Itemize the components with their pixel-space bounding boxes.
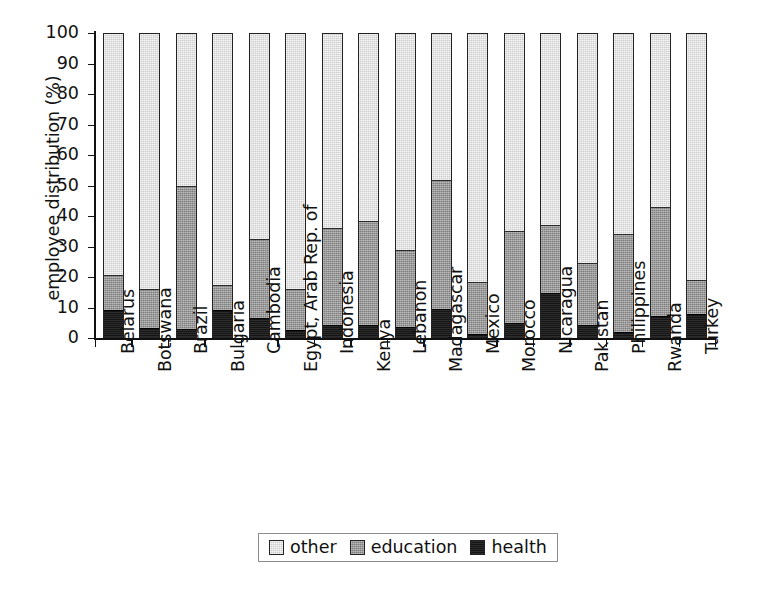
segment-other <box>432 34 451 180</box>
bars-layer <box>95 33 715 338</box>
y-axis-tick-label: 30 <box>57 238 79 256</box>
x-axis-label-belarus: Belarus <box>120 289 138 354</box>
bar-kenya <box>358 33 379 338</box>
x-axis-label-turkey: Turkey <box>704 298 722 354</box>
legend-label-health: health <box>491 539 546 557</box>
bar-mexico <box>467 33 488 338</box>
stacked-bar-chart: employee distribution (%) 01020304050607… <box>0 0 762 593</box>
segment-other <box>323 34 342 228</box>
legend-item-education: education <box>350 539 458 557</box>
legend-item-other: other <box>269 539 337 557</box>
y-axis-tick-label: 20 <box>57 268 79 286</box>
y-axis-tick: 60 <box>88 155 95 156</box>
y-axis-tick: 20 <box>88 277 95 278</box>
bar-pakistan <box>577 33 598 338</box>
x-axis-label-brazil: Brazil <box>193 306 211 354</box>
segment-other <box>505 34 524 231</box>
chart-legend: other education health <box>258 533 558 562</box>
segment-other <box>104 34 123 275</box>
x-axis-label-pakistan: Pakistan <box>594 300 612 372</box>
y-axis-tick: 10 <box>88 308 95 309</box>
segment-other <box>578 34 597 263</box>
x-axis-line <box>94 338 716 340</box>
y-axis-tick-label: 40 <box>57 207 79 225</box>
y-axis-tick: 70 <box>88 125 95 126</box>
light-gray-swatch-icon <box>269 540 284 555</box>
x-axis-label-cambodia: Cambodia <box>266 266 284 354</box>
segment-other <box>177 34 196 186</box>
x-axis-tick <box>95 339 96 347</box>
black-swatch-icon <box>470 540 485 555</box>
plot-area: 0102030405060708090100 <box>95 33 715 338</box>
segment-other <box>250 34 269 239</box>
bar-brazil <box>176 33 197 338</box>
x-axis-label-madagascar: Madagascar <box>448 267 466 372</box>
segment-other <box>614 34 633 234</box>
x-axis-label-indonesia: Indonesia <box>339 270 357 354</box>
segment-education <box>359 221 378 325</box>
y-axis-tick-label: 90 <box>57 55 79 73</box>
bar-rwanda <box>650 33 671 338</box>
y-axis-tick: 40 <box>88 216 95 217</box>
segment-other <box>468 34 487 282</box>
bar-bulgaria <box>212 33 233 338</box>
bar-morocco <box>504 33 525 338</box>
x-axis-label-bulgaria: Bulgaria <box>230 300 248 372</box>
x-axis-label-rwanda: Rwanda <box>667 302 685 372</box>
y-axis-tick-label: 10 <box>57 299 79 317</box>
segment-other <box>359 34 378 221</box>
x-axis-label-mexico: Mexico <box>485 293 503 354</box>
y-axis-tick: 100 <box>88 33 95 34</box>
y-axis-tick-label: 80 <box>57 85 79 103</box>
y-axis-tick: 50 <box>88 186 95 187</box>
segment-other <box>541 34 560 225</box>
x-axis-label-kenya: Kenya <box>376 319 394 372</box>
segment-other <box>651 34 670 207</box>
y-axis-tick: 80 <box>88 94 95 95</box>
medium-gray-swatch-icon <box>350 540 365 555</box>
x-axis-label-philippines: Philippines <box>631 261 649 354</box>
segment-other <box>687 34 706 280</box>
y-axis-tick-label: 50 <box>57 177 79 195</box>
y-axis-tick: 0 <box>88 338 95 339</box>
segment-other <box>140 34 159 289</box>
y-axis-tick-label: 60 <box>57 146 79 164</box>
segment-education <box>651 207 670 316</box>
legend-item-health: health <box>470 539 546 557</box>
x-axis-label-nicaragua: Nicaragua <box>558 266 576 354</box>
y-axis-tick-label: 100 <box>46 24 79 42</box>
x-axis-label-egypt-arab-rep-of: Egypt, Arab Rep. of <box>303 204 321 372</box>
y-axis-tick: 90 <box>88 64 95 65</box>
y-axis-tick-label: 0 <box>68 329 79 347</box>
x-axis-label-morocco: Morocco <box>521 299 539 372</box>
legend-label-other: other <box>290 539 337 557</box>
y-axis-tick: 30 <box>88 247 95 248</box>
bar-turkey <box>686 33 707 338</box>
x-axis-label-lebanon: Lebanon <box>412 280 430 354</box>
segment-other <box>396 34 415 250</box>
x-axis-label-botswana: Botswana <box>157 287 175 372</box>
y-axis-tick-label: 70 <box>57 116 79 134</box>
legend-label-education: education <box>371 539 458 557</box>
segment-other <box>213 34 232 285</box>
